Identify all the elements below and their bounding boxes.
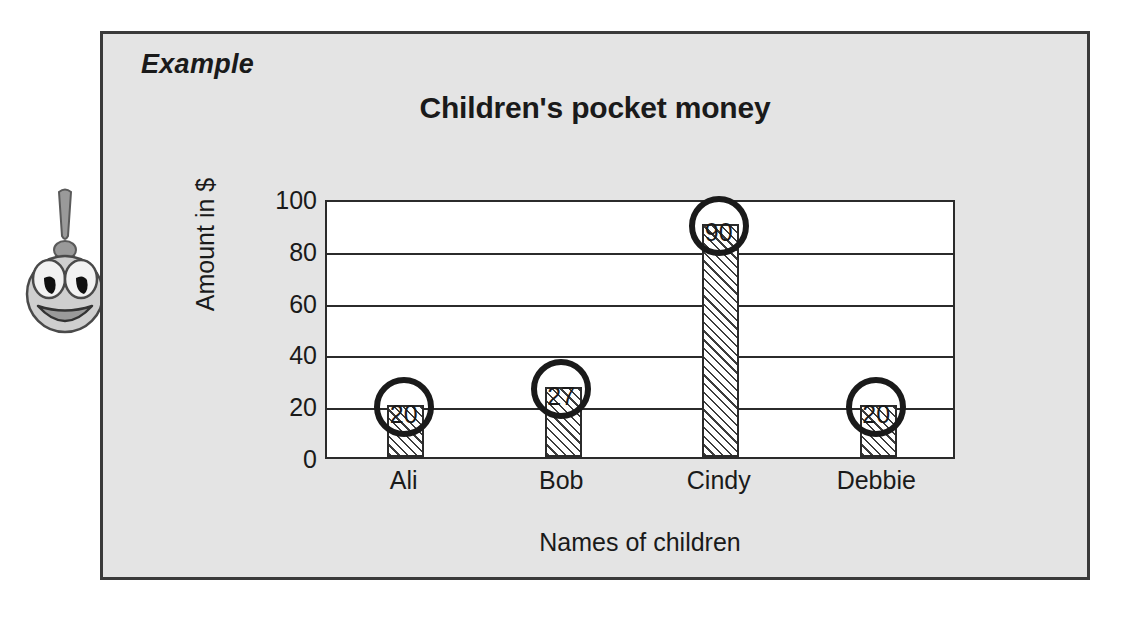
gridline: [327, 305, 953, 307]
value-annotation-label: 20: [390, 402, 418, 427]
y-axis-title: Amount in $: [191, 115, 220, 375]
x-axis-tick-label: Bob: [491, 468, 631, 493]
value-annotation-label: 27: [547, 384, 575, 409]
y-axis-tick-label: 40: [261, 343, 317, 368]
y-axis-tick-label: 100: [261, 188, 317, 213]
x-axis-title: Names of children: [325, 528, 955, 557]
value-annotation-circle: 20: [374, 377, 434, 437]
x-axis-tick-label: Debbie: [806, 468, 946, 493]
example-panel: Example Children's pocket money Amount i…: [100, 31, 1090, 580]
value-annotation-label: 20: [862, 402, 890, 427]
gridline: [327, 356, 953, 358]
example-label: Example: [141, 49, 254, 80]
y-axis-tick-label: 60: [261, 291, 317, 316]
mascot-exclamation-smiley-icon: [22, 186, 108, 336]
gridline: [327, 253, 953, 255]
y-axis-tick-label: 0: [261, 447, 317, 472]
y-axis-tick-labels: 020406080100: [251, 200, 317, 459]
x-axis-tick-label: Cindy: [649, 468, 789, 493]
x-axis-tick-label: Ali: [334, 468, 474, 493]
value-annotation-label: 90: [705, 220, 733, 245]
x-axis-tick-labels: AliBobCindyDebbie: [325, 468, 955, 502]
y-axis-tick-label: 80: [261, 239, 317, 264]
chart-title: Children's pocket money: [103, 91, 1087, 125]
y-axis-tick-label: 20: [261, 395, 317, 420]
value-annotation-circle: 27: [531, 359, 591, 419]
bar: [702, 224, 739, 457]
value-annotation-circle: 90: [689, 196, 749, 256]
